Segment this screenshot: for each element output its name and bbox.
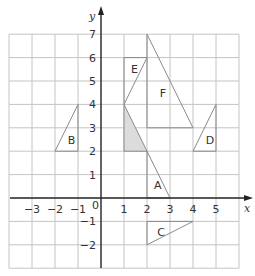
y-axis-arrow-icon bbox=[98, 6, 104, 15]
x-tick-label: −2 bbox=[47, 203, 63, 216]
y-tick-label: 7 bbox=[89, 28, 96, 41]
triangle-F-label: F bbox=[160, 87, 166, 100]
y-tick-label: −1 bbox=[80, 215, 96, 228]
y-tick-label: 1 bbox=[89, 169, 96, 182]
x-tick-label: 4 bbox=[190, 203, 197, 216]
x-tick-label: −1 bbox=[70, 203, 86, 216]
y-tick-label: 6 bbox=[89, 52, 96, 65]
y-tick-label: 5 bbox=[89, 75, 96, 88]
x-tick-label: 1 bbox=[121, 203, 128, 216]
triangle-E-label: E bbox=[131, 63, 138, 76]
y-tick-label: 2 bbox=[89, 145, 96, 158]
x-axis-arrow-icon bbox=[244, 195, 253, 201]
x-tick-label: 2 bbox=[144, 203, 151, 216]
y-axis-label: y bbox=[88, 10, 96, 23]
triangle-A-label: A bbox=[154, 179, 162, 192]
x-tick-label: 3 bbox=[167, 203, 174, 216]
triangle-D-label: D bbox=[206, 134, 214, 147]
x-axis-label: x bbox=[244, 202, 251, 215]
y-tick-label: −2 bbox=[80, 239, 96, 252]
y-tick-label: 3 bbox=[89, 122, 96, 135]
triangle-C-label: C bbox=[157, 226, 165, 239]
coordinate-grid-diagram: x y 0 −3−2−1123457654321−1−2 ABCDEF bbox=[0, 0, 255, 276]
y-tick-label: 4 bbox=[89, 98, 96, 111]
triangle-B-label: B bbox=[68, 134, 76, 147]
x-tick-label: −3 bbox=[24, 203, 40, 216]
origin-label: 0 bbox=[92, 199, 99, 212]
x-tick-label: 5 bbox=[213, 203, 220, 216]
tick-labels: −3−2−1123457654321−1−2 bbox=[24, 28, 220, 252]
